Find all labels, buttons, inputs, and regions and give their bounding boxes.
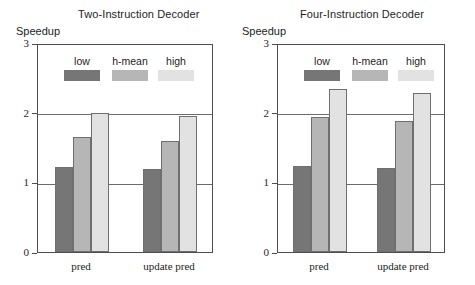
x-category-label: pred	[71, 260, 91, 272]
legend-label-high: high	[166, 55, 186, 67]
legend-swatch-hmean	[112, 70, 148, 81]
legend-swatch-hmean	[352, 70, 388, 81]
legend-label-low: low	[314, 55, 330, 67]
bar	[91, 113, 109, 252]
chart-title: Two-Instruction Decoder	[78, 8, 200, 20]
y-tick-label: 0	[249, 246, 269, 258]
y-tick-mark	[32, 253, 37, 254]
y-tick-mark	[32, 44, 37, 45]
bar	[311, 117, 329, 252]
y-tick-label: 2	[249, 107, 269, 119]
x-category-label: update pred	[377, 260, 429, 272]
legend: lowh-meanhigh	[296, 55, 436, 83]
x-category-label: pred	[309, 260, 329, 272]
y-tick-mark	[272, 183, 277, 184]
bar	[143, 169, 161, 252]
x-category-label: update pred	[143, 260, 195, 272]
legend-swatch-low	[64, 70, 100, 81]
bar	[329, 89, 347, 252]
bar	[161, 141, 179, 252]
plot-area: lowh-meanhigh	[277, 44, 445, 253]
y-tick-label: 0	[9, 246, 29, 258]
y-axis-title: Speedup	[242, 25, 286, 37]
y-tick-label: 3	[249, 37, 269, 49]
chart-title: Four-Instruction Decoder	[300, 8, 424, 20]
y-tick-mark	[272, 253, 277, 254]
bar	[395, 121, 413, 252]
y-tick-mark	[32, 113, 37, 114]
plot-area: lowh-meanhigh	[37, 44, 213, 253]
gridline	[38, 114, 212, 115]
bar	[377, 168, 395, 252]
chart-panel-four-instruction-decoder: Four-Instruction Decoder Speedup lowh-me…	[238, 0, 475, 285]
y-tick-label: 1	[249, 176, 269, 188]
y-axis-title: Speedup	[16, 25, 60, 37]
y-tick-label: 1	[9, 176, 29, 188]
legend-label-hmean: h-mean	[112, 55, 148, 67]
y-tick-label: 2	[9, 107, 29, 119]
y-tick-label: 3	[9, 37, 29, 49]
bar	[179, 116, 197, 252]
bar	[413, 93, 431, 252]
legend-swatch-high	[158, 70, 194, 81]
legend: lowh-meanhigh	[56, 55, 196, 83]
chart-panel-two-instruction-decoder: Two-Instruction Decoder Speedup lowh-mea…	[0, 0, 238, 285]
y-tick-mark	[272, 44, 277, 45]
legend-label-high: high	[406, 55, 426, 67]
bar	[293, 166, 311, 252]
bar	[55, 167, 73, 252]
bar	[73, 137, 91, 252]
legend-swatch-low	[304, 70, 340, 81]
y-tick-mark	[272, 113, 277, 114]
y-tick-mark	[32, 183, 37, 184]
legend-swatch-high	[398, 70, 434, 81]
legend-label-low: low	[74, 55, 90, 67]
legend-label-hmean: h-mean	[352, 55, 388, 67]
